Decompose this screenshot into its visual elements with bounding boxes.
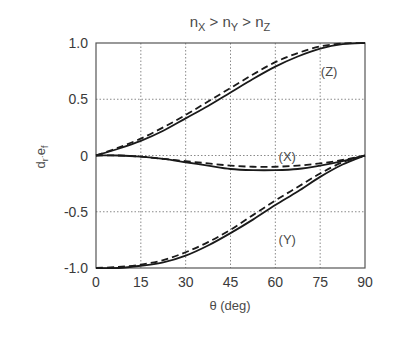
y-tick-label: 0.5: [69, 91, 89, 107]
annotation-label: (X): [279, 149, 296, 164]
x-tick-label: 15: [133, 274, 149, 290]
x-tick-label: 75: [312, 274, 328, 290]
y-tick-label: -0.5: [64, 204, 88, 220]
y-tick-label: 0: [80, 148, 88, 164]
x-axis-label: θ (deg): [209, 298, 250, 313]
annotation-label: (Z): [321, 64, 338, 79]
y-axis-label: dr·ef: [33, 145, 50, 168]
x-tick-label: 30: [178, 274, 194, 290]
x-tick-label: 60: [268, 274, 284, 290]
chart-title: nX > nY > nZ: [190, 13, 271, 33]
chart: nX > nY > nZ 0153045607590 1.00.50-0.5-1…: [0, 0, 394, 347]
x-axis-ticks: 0153045607590: [92, 274, 373, 290]
y-tick-label: 1.0: [69, 35, 89, 51]
y-axis-ticks: 1.00.50-0.5-1.0: [64, 35, 88, 276]
x-tick-label: 90: [357, 274, 373, 290]
annotation-label: (Y): [279, 232, 296, 247]
curve-annotations: (Z)(X)(Y): [279, 64, 338, 247]
x-tick-label: 45: [223, 274, 239, 290]
x-tick-label: 0: [92, 274, 100, 290]
svg-text:dr·ef: dr·ef: [33, 145, 50, 168]
y-tick-label: -1.0: [64, 260, 88, 276]
